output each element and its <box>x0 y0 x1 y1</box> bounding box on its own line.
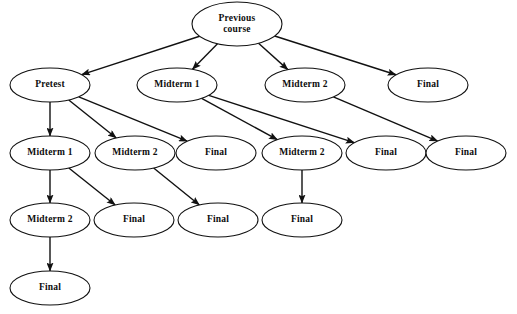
node-label: Final <box>455 147 477 157</box>
node-n9[interactable]: Final <box>346 136 426 170</box>
edge-n5-to-n12 <box>69 168 115 205</box>
node-n6[interactable]: Midterm 2 <box>95 136 175 170</box>
node-n10[interactable]: Final <box>426 136 506 170</box>
diagram-canvas: PreviouscoursePretestMidterm 1Midterm 2F… <box>0 0 517 314</box>
scan-footer-text <box>0 307 517 314</box>
edge-n1-to-n6 <box>69 100 116 138</box>
node-label: Final <box>291 214 313 224</box>
edge-n3-to-n10 <box>333 97 437 141</box>
node-n14[interactable]: Final <box>262 203 342 237</box>
edge-n1-to-n7 <box>79 97 187 141</box>
node-label: Midterm 2 <box>279 147 324 157</box>
node-n11[interactable]: Midterm 2 <box>10 203 90 237</box>
node-label: Midterm 1 <box>154 79 199 89</box>
node-label: Previouscourse <box>219 13 256 34</box>
node-label: Midterm 2 <box>112 147 157 157</box>
tree-diagram: PreviouscoursePretestMidterm 1Midterm 2F… <box>0 0 517 314</box>
edge-n0-to-n2 <box>192 44 217 69</box>
node-label: Midterm 2 <box>27 214 72 224</box>
node-label: Midterm 2 <box>282 79 327 89</box>
node-n13[interactable]: Final <box>178 203 258 237</box>
node-label: Pretest <box>35 79 65 89</box>
edge-n0-to-n3 <box>259 43 288 69</box>
node-label: Final <box>207 214 229 224</box>
node-n7[interactable]: Final <box>176 136 256 170</box>
node-label: Final <box>39 282 61 292</box>
node-n8[interactable]: Midterm 2 <box>262 136 342 170</box>
node-label: Final <box>417 79 439 89</box>
node-n4[interactable]: Final <box>388 68 468 102</box>
edge-n2-to-n8 <box>202 98 278 139</box>
edge-n6-to-n13 <box>154 168 200 205</box>
node-label: Final <box>123 214 145 224</box>
node-n0[interactable]: Previouscourse <box>192 2 282 46</box>
edge-n2-to-n9 <box>209 95 354 142</box>
node-n2[interactable]: Midterm 1 <box>137 68 217 102</box>
node-n5[interactable]: Midterm 1 <box>10 136 90 170</box>
node-label: Midterm 1 <box>27 147 72 157</box>
node-n1[interactable]: Pretest <box>10 68 90 102</box>
node-n15[interactable]: Final <box>10 271 90 305</box>
node-label: Final <box>205 147 227 157</box>
node-n12[interactable]: Final <box>94 203 174 237</box>
nodes-layer: PreviouscoursePretestMidterm 1Midterm 2F… <box>10 2 506 305</box>
node-label: Final <box>375 147 397 157</box>
node-n3[interactable]: Midterm 2 <box>265 68 345 102</box>
